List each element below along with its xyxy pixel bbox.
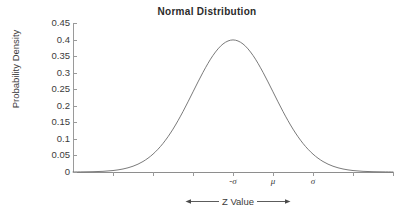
y-tick-mark	[73, 155, 77, 156]
left-arrow-icon	[185, 197, 219, 206]
y-tick-label: 0.2	[30, 101, 70, 111]
x-tick-mark	[113, 172, 114, 176]
y-tick-mark	[73, 122, 77, 123]
x-tick-label: σ	[301, 176, 325, 186]
y-axis-line	[73, 23, 74, 173]
x-axis-title: Z Value	[222, 196, 254, 207]
y-tick-label: 0.25	[30, 84, 70, 94]
y-tick-label: 0.45	[30, 18, 70, 28]
y-tick-mark	[73, 40, 77, 41]
y-tick-label: 0.4	[30, 35, 70, 45]
y-tick-label: 0.3	[30, 68, 70, 78]
chart-title: Normal Distribution	[0, 6, 414, 17]
y-tick-label: 0.05	[30, 150, 70, 160]
y-tick-label: 0.35	[30, 51, 70, 61]
y-tick-mark	[73, 172, 77, 173]
y-axis-tick-labels: 0.450.40.350.30.250.20.150.10.050	[30, 17, 70, 177]
x-tick-mark	[353, 172, 354, 176]
y-tick-label: 0	[30, 167, 70, 177]
x-tick-label: -σ	[221, 176, 245, 186]
y-tick-mark	[73, 56, 77, 57]
x-tick-mark	[193, 172, 194, 176]
right-arrow-icon	[257, 197, 291, 206]
y-tick-mark	[73, 73, 77, 74]
x-axis-title-group: Z Value	[0, 193, 414, 209]
x-tick-mark	[153, 172, 154, 176]
y-tick-label: 0.1	[30, 134, 70, 144]
y-axis-label: Probability Density	[10, 0, 24, 139]
x-tick-mark	[393, 172, 394, 176]
y-tick-mark	[73, 23, 77, 24]
y-tick-mark	[73, 89, 77, 90]
y-tick-mark	[73, 106, 77, 107]
y-tick-mark	[73, 139, 77, 140]
y-tick-label: 0.15	[30, 117, 70, 127]
normal-distribution-chart: Normal Distribution Probability Density …	[0, 0, 414, 218]
x-tick-label: μ	[261, 176, 285, 186]
